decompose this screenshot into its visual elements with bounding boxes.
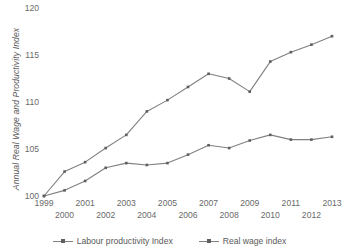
x-tick-2001: 2001 bbox=[76, 198, 95, 208]
data-point bbox=[125, 162, 128, 165]
legend-marker-icon bbox=[53, 237, 73, 245]
x-tick-1999: 1999 bbox=[34, 198, 53, 208]
legend-label: Labour productivity Index bbox=[77, 236, 173, 246]
data-point bbox=[146, 110, 149, 113]
data-point bbox=[84, 180, 87, 183]
legend-item-2[interactable]: Real wage index bbox=[199, 236, 287, 246]
data-point bbox=[207, 73, 210, 76]
chart-legend: Labour productivity IndexReal wage index bbox=[0, 236, 339, 246]
x-tick-2007: 2007 bbox=[199, 198, 218, 208]
x-tick-2003: 2003 bbox=[117, 198, 136, 208]
legend-label: Real wage index bbox=[223, 236, 287, 246]
data-point bbox=[187, 153, 190, 156]
data-point bbox=[248, 90, 251, 93]
plot-area: 120115110105100 bbox=[44, 8, 332, 196]
x-tick-2006: 2006 bbox=[178, 210, 197, 220]
data-point bbox=[166, 162, 169, 165]
series-layer bbox=[44, 8, 332, 196]
data-point bbox=[104, 167, 107, 170]
x-tick-2004: 2004 bbox=[137, 210, 156, 220]
y-tick-110: 110 bbox=[25, 97, 39, 107]
data-point bbox=[104, 147, 107, 150]
y-tick-105: 105 bbox=[25, 144, 39, 154]
x-tick-2008: 2008 bbox=[220, 210, 239, 220]
x-tick-2005: 2005 bbox=[158, 198, 177, 208]
x-tick-2012: 2012 bbox=[302, 210, 321, 220]
series-line bbox=[44, 36, 332, 196]
x-tick-2011: 2011 bbox=[282, 198, 300, 208]
x-tick-2000: 2000 bbox=[55, 210, 74, 220]
y-tick-120: 120 bbox=[25, 3, 39, 13]
data-point bbox=[207, 144, 210, 147]
data-point bbox=[63, 170, 66, 173]
series-2 bbox=[43, 134, 334, 198]
x-tick-2009: 2009 bbox=[240, 198, 259, 208]
data-point bbox=[269, 60, 272, 63]
data-point bbox=[63, 189, 66, 192]
data-point bbox=[269, 134, 272, 137]
data-point bbox=[331, 35, 334, 38]
data-point bbox=[187, 86, 190, 89]
data-point bbox=[248, 139, 251, 142]
data-point bbox=[43, 195, 46, 198]
data-point bbox=[228, 147, 231, 150]
data-point bbox=[125, 134, 128, 137]
data-point bbox=[310, 43, 313, 46]
data-point bbox=[310, 138, 313, 141]
x-tick-2010: 2010 bbox=[261, 210, 280, 220]
x-axis-tick-labels: 1999200020012002200320042005200620072008… bbox=[44, 198, 332, 224]
data-point bbox=[146, 164, 149, 167]
data-point bbox=[290, 138, 293, 141]
legend-marker-icon bbox=[199, 237, 219, 245]
data-point bbox=[290, 51, 293, 54]
x-tick-2002: 2002 bbox=[96, 210, 115, 220]
series-1 bbox=[43, 35, 334, 197]
data-point bbox=[84, 161, 87, 164]
y-axis-title: Annual Real Wage and Productivity Index bbox=[11, 12, 21, 207]
x-tick-2013: 2013 bbox=[322, 198, 341, 208]
data-point bbox=[166, 99, 169, 102]
data-point bbox=[228, 77, 231, 80]
data-point bbox=[331, 135, 334, 138]
legend-item-1[interactable]: Labour productivity Index bbox=[53, 236, 173, 246]
series-line bbox=[44, 135, 332, 196]
y-tick-115: 115 bbox=[25, 50, 39, 60]
